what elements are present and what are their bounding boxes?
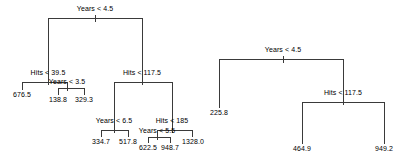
node-label-hits-185: Hits < 185: [156, 117, 189, 125]
node-label-years-4-5-left: Years < 4.5: [77, 5, 113, 13]
leaf-value-948-7: 948.7: [161, 144, 179, 152]
leaf-value-517-8: 517.8: [119, 138, 137, 146]
node-label-years-3-5: Years < 3.5: [49, 78, 85, 86]
leaf-value-622-5: 622.5: [139, 144, 157, 152]
node-label-hits-117-5-right: Hits < 117.5: [324, 89, 362, 97]
leaf-value-225-8: 225.8: [210, 109, 228, 117]
node-label-years-6-5: Years < 6.5: [96, 117, 132, 125]
node-label-years-5-5: Years < 5.5: [139, 127, 175, 135]
node-label-hits-117-5-left: Hits < 117.5: [123, 69, 161, 77]
leaf-value-949-2: 949.2: [375, 145, 393, 153]
node-label-years-4-5-right: Years < 4.5: [265, 46, 301, 54]
leaf-value-334-7: 334.7: [92, 138, 110, 146]
leaf-value-138-8: 138.8: [49, 96, 67, 104]
node-label-hits-39-5: Hits < 39.5: [31, 69, 66, 77]
leaf-value-464-9: 464.9: [293, 145, 311, 153]
leaf-value-1328-0: 1328.0: [182, 138, 204, 146]
leaf-value-329-3: 329.3: [75, 96, 93, 104]
leaf-value-676-5: 676.5: [13, 91, 31, 99]
regression-tree-figure: Years < 4.5 Hits < 39.5 Hits < 117.5 Yea…: [0, 0, 412, 165]
